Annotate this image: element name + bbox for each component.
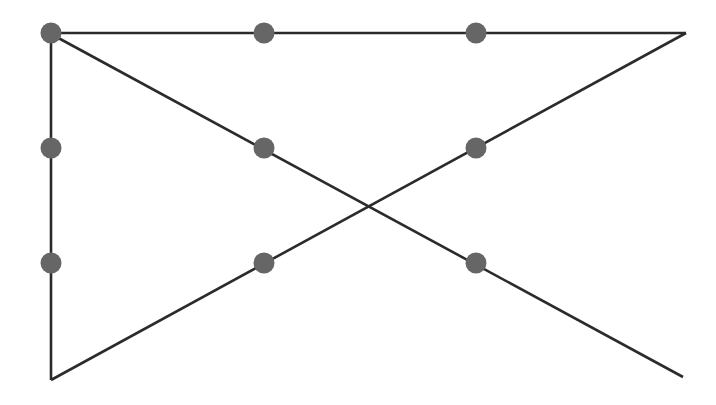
node-5 bbox=[254, 138, 275, 159]
node-7 bbox=[41, 253, 62, 274]
node-8 bbox=[254, 253, 275, 274]
node-6 bbox=[466, 138, 487, 159]
edges-group bbox=[51, 33, 686, 380]
diagram-canvas bbox=[0, 0, 716, 405]
node-9 bbox=[466, 253, 487, 274]
diagram-svg bbox=[0, 0, 716, 405]
node-2 bbox=[254, 23, 275, 44]
node-4 bbox=[41, 138, 62, 159]
node-1 bbox=[41, 23, 62, 44]
nodes-group bbox=[41, 23, 487, 274]
node-3 bbox=[466, 23, 487, 44]
